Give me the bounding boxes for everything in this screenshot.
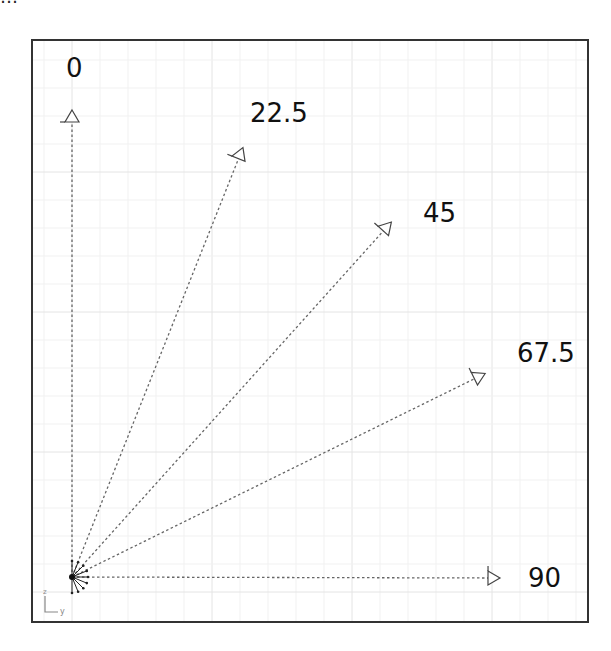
fan-dot: [77, 561, 80, 564]
fan-dot: [82, 564, 85, 567]
arrowhead-icon: [488, 571, 500, 585]
vector-line: [72, 577, 492, 578]
axis-y-label: y: [60, 607, 65, 616]
arrowhead-icon: [232, 148, 245, 162]
arrowhead-tick: [469, 368, 471, 372]
grid: [32, 40, 588, 622]
fan-dot: [87, 576, 90, 579]
vector-line: [72, 377, 478, 577]
origin-dot: [69, 574, 75, 580]
arrowhead-tick: [227, 154, 232, 156]
vector-line: [72, 228, 386, 577]
origin-fan-icon: [69, 560, 89, 595]
vector-label: 90: [528, 565, 561, 591]
fan-dot: [77, 590, 80, 593]
fan-dot: [71, 560, 74, 563]
vector-label: 67.5: [517, 340, 575, 366]
arrowhead-icon: [471, 372, 485, 385]
fan-dot: [85, 582, 88, 585]
fan-dot: [85, 570, 88, 573]
fan-dot: [82, 587, 85, 590]
vector-label: 22.5: [250, 100, 308, 126]
vector-arrows: [60, 110, 500, 585]
fan-dot: [71, 592, 74, 595]
axis-lines: [45, 596, 58, 612]
vector-label: 45: [423, 200, 456, 226]
viewport-frame: [32, 40, 588, 622]
axis-z-label: z: [43, 588, 47, 596]
arrowhead-tick: [374, 223, 378, 226]
vector-label: 0: [66, 55, 83, 81]
